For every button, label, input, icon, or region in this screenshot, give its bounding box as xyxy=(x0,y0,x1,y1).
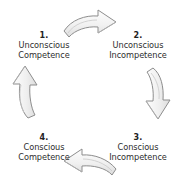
stage-3-label: 3. Conscious Incompetence xyxy=(101,133,175,163)
arrow-down-icon xyxy=(139,65,179,123)
stage-4-label: 4. Conscious Competence xyxy=(7,133,81,163)
stage-1-number: 1. xyxy=(7,31,81,40)
competence-cycle-diagram: 1. Unconscious Competence 2. Unconscious… xyxy=(0,0,181,185)
arrow-up-icon xyxy=(4,63,44,121)
stage-3-number: 3. xyxy=(101,133,175,142)
stage-1-line2: Competence xyxy=(7,51,81,61)
stage-2-number: 2. xyxy=(101,31,175,40)
stage-3-line2: Incompetence xyxy=(101,153,175,163)
stage-4-number: 4. xyxy=(7,133,81,142)
stage-2-label: 2. Unconscious Incompetence xyxy=(101,31,175,61)
stage-2-line2: Incompetence xyxy=(101,51,175,61)
stage-1-label: 1. Unconscious Competence xyxy=(7,31,81,61)
stage-4-line2: Competence xyxy=(7,153,81,163)
